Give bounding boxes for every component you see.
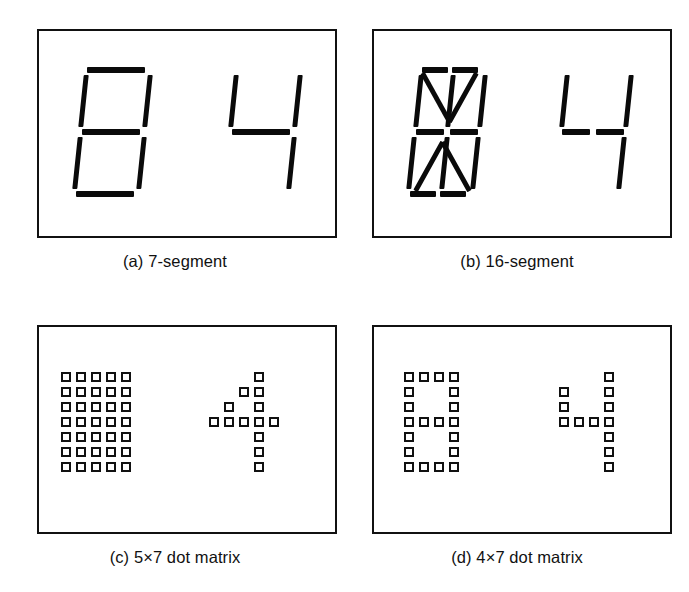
dot-on xyxy=(106,462,116,472)
dot-on xyxy=(449,432,459,442)
dot-on xyxy=(91,432,101,442)
dot-on xyxy=(61,432,71,442)
seg7-glyph-all-on xyxy=(73,67,159,197)
dot-off xyxy=(589,402,599,412)
seg16-glyph-four xyxy=(552,67,638,197)
dot-on xyxy=(61,462,71,472)
dot-off xyxy=(574,372,584,382)
dot-on xyxy=(61,447,71,457)
seg16-a1-segment xyxy=(422,67,448,73)
seg16-g1-segment xyxy=(562,129,590,135)
dot-off xyxy=(419,432,429,442)
dot-off xyxy=(239,402,249,412)
dot-on xyxy=(604,372,614,382)
dot-on xyxy=(76,462,86,472)
dot-off xyxy=(559,447,569,457)
dot-on xyxy=(91,372,101,382)
dot-off xyxy=(239,372,249,382)
panel-d-4x7-dot-matrix: (d) 4×7 dot matrix xyxy=(345,296,689,592)
panel-b-caption: (b) 16-segment xyxy=(345,252,689,271)
dot-off xyxy=(419,402,429,412)
panel-c-5x7-dot-matrix: (c) 5×7 dot matrix xyxy=(0,296,344,592)
dot-on xyxy=(121,372,131,382)
seg7-a-segment xyxy=(87,67,145,73)
panel-a-7-segment: (a) 7-segment xyxy=(0,0,344,296)
dot-on xyxy=(61,417,71,427)
dot-on xyxy=(121,447,131,457)
dot-off xyxy=(434,447,444,457)
dot-on xyxy=(449,402,459,412)
dot-on xyxy=(404,447,414,457)
dot-off xyxy=(574,387,584,397)
dot-off xyxy=(224,372,234,382)
dot-off xyxy=(419,387,429,397)
dot-on xyxy=(61,402,71,412)
dot-off xyxy=(269,462,279,472)
dot-on xyxy=(209,417,219,427)
dot-off xyxy=(209,402,219,412)
seg7-b-segment xyxy=(292,75,302,127)
panel-a-frame xyxy=(37,29,337,238)
dot-on xyxy=(106,387,116,397)
seg16-d2-segment xyxy=(440,191,466,197)
dot-on xyxy=(419,417,429,427)
dot-on xyxy=(121,462,131,472)
dot-on xyxy=(434,372,444,382)
dot-off xyxy=(589,462,599,472)
dot-off xyxy=(434,402,444,412)
dot-on xyxy=(121,387,131,397)
dot-on xyxy=(419,462,429,472)
dot-off xyxy=(589,447,599,457)
dot-on xyxy=(61,387,71,397)
dot-on xyxy=(434,462,444,472)
dot-matrix-4x7-four xyxy=(559,372,614,472)
panel-d-glyph-area xyxy=(374,327,670,532)
panel-c-caption: (c) 5×7 dot matrix xyxy=(0,548,344,567)
dot-off xyxy=(574,402,584,412)
dot-on xyxy=(91,462,101,472)
dot-matrix-5x7-all-on xyxy=(61,372,131,472)
dot-on xyxy=(254,387,264,397)
dot-on xyxy=(404,432,414,442)
panel-b-16-segment: (b) 16-segment xyxy=(345,0,689,296)
dot-on xyxy=(559,387,569,397)
dot-on xyxy=(449,387,459,397)
seg16-f-segment xyxy=(559,75,569,127)
dot-on xyxy=(254,372,264,382)
dot-on xyxy=(574,417,584,427)
dot-on xyxy=(239,387,249,397)
dot-on xyxy=(604,432,614,442)
panel-d-caption: (d) 4×7 dot matrix xyxy=(345,548,689,567)
dot-on xyxy=(91,417,101,427)
dot-on xyxy=(91,402,101,412)
dot-on xyxy=(404,387,414,397)
dot-on xyxy=(106,417,116,427)
dot-off xyxy=(434,387,444,397)
dot-matrix-5x7-four xyxy=(209,372,279,472)
dot-off xyxy=(209,462,219,472)
dot-off xyxy=(209,372,219,382)
dot-off xyxy=(559,372,569,382)
panel-c-frame xyxy=(37,325,337,534)
dot-on xyxy=(254,417,264,427)
seg16-e-segment xyxy=(406,137,416,189)
panel-b-glyph-area xyxy=(374,31,670,236)
dot-on xyxy=(254,402,264,412)
seg7-glyph-four xyxy=(223,67,309,197)
dot-off xyxy=(209,432,219,442)
dot-on xyxy=(559,402,569,412)
panel-d-frame xyxy=(372,325,672,534)
seg7-g-segment xyxy=(232,129,290,135)
seg7-f-segment xyxy=(78,75,88,127)
seg16-f-segment xyxy=(413,75,423,127)
dot-on xyxy=(559,417,569,427)
seg7-e-segment xyxy=(72,137,82,189)
dot-on xyxy=(106,432,116,442)
seg16-c-segment xyxy=(616,137,626,189)
panel-b-frame xyxy=(372,29,672,238)
dot-on xyxy=(121,432,131,442)
dot-on xyxy=(76,447,86,457)
dot-off xyxy=(419,447,429,457)
dot-off xyxy=(589,387,599,397)
dot-on xyxy=(449,417,459,427)
